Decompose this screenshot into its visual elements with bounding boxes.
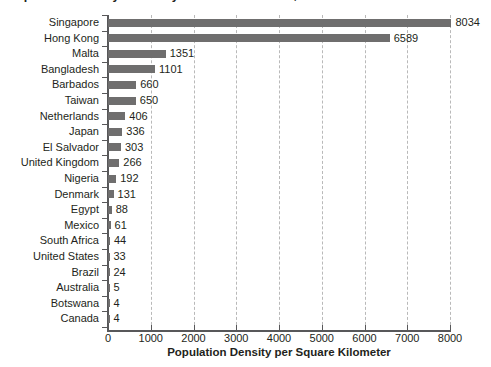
bar[interactable] [108,221,111,229]
bar[interactable] [108,50,166,58]
x-axis-tick-label: 5000 [310,332,334,344]
category-label: Nigeria [0,171,99,187]
bar[interactable] [108,299,110,307]
bar[interactable] [108,175,116,183]
category-label: Botswana [0,296,99,312]
category-label: Australia [0,280,99,296]
bar-row: Australia5 [0,280,491,296]
bar-row: Malta1351 [0,46,491,62]
x-axis-tick-label: 7000 [395,332,419,344]
bar-value-label: 8034 [455,15,479,31]
category-label: Singapore [0,15,99,31]
bar[interactable] [108,206,112,214]
x-axis-tick-label: 6000 [352,332,376,344]
bar-row: Singapore8034 [0,15,491,31]
bar-value-label: 4 [114,296,120,312]
bar-value-label: 406 [129,109,147,125]
bar-row: Denmark131 [0,187,491,203]
bar[interactable] [108,284,110,292]
category-label: Denmark [0,187,99,203]
bar[interactable] [108,112,125,120]
bar[interactable] [108,190,114,198]
bar-row: Egypt88 [0,202,491,218]
bar-value-label: 303 [125,140,143,156]
category-label: Malta [0,46,99,62]
bar-value-label: 24 [114,265,126,281]
category-label: Canada [0,311,99,327]
bar[interactable] [108,81,136,89]
bar-row: Botswana4 [0,296,491,312]
category-label: Egypt [0,202,99,218]
x-axis-tick-label: 8000 [438,332,462,344]
x-axis-tick-label: 0 [105,332,111,344]
bar[interactable] [108,65,155,73]
bar-row: Brazil24 [0,265,491,281]
category-label: Netherlands [0,109,99,125]
bar-row: United States33 [0,249,491,265]
category-label: United States [0,249,99,265]
bar-value-label: 44 [114,233,126,249]
bar-value-label: 131 [118,187,136,203]
bar-value-label: 4 [114,311,120,327]
category-label: Barbados [0,77,99,93]
category-label: Mexico [0,218,99,234]
category-label: United Kingdom [0,155,99,171]
category-label: Hong Kong [0,31,99,47]
bar-value-label: 6589 [394,31,418,47]
bar-value-label: 266 [123,155,141,171]
bar-row: Mexico61 [0,218,491,234]
bar[interactable] [108,159,119,167]
bar-value-label: 5 [114,280,120,296]
bar[interactable] [108,34,390,42]
bar-row: Barbados660 [0,77,491,93]
bar[interactable] [108,315,110,323]
bar-row: El Salvador303 [0,140,491,156]
bar-value-label: 88 [116,202,128,218]
category-label: Japan [0,124,99,140]
bar-row: United Kingdom266 [0,155,491,171]
bar-row: Netherlands406 [0,109,491,125]
category-label: Taiwan [0,93,99,109]
x-axis-tick-label: 2000 [181,332,205,344]
bar-value-label: 650 [140,93,158,109]
bar[interactable] [108,237,110,245]
bar-value-label: 1351 [170,46,194,62]
bar[interactable] [108,128,122,136]
bar-row: Canada4 [0,311,491,327]
category-label: South Africa [0,233,99,249]
bar-value-label: 660 [140,77,158,93]
bar[interactable] [108,253,110,261]
category-label: Brazil [0,265,99,281]
x-axis-tick-label: 4000 [267,332,291,344]
bar-value-label: 61 [115,218,127,234]
bar-value-label: 1101 [159,62,183,78]
bar-row: Taiwan650 [0,93,491,109]
x-axis-title: Population Density per Square Kilometer [108,346,450,358]
category-label: Bangladesh [0,62,99,78]
x-axis-tick-label: 1000 [139,332,163,344]
bar-value-label: 192 [120,171,138,187]
bar-value-label: 336 [126,124,144,140]
bar-row: Bangladesh1101 [0,62,491,78]
bar-row: Hong Kong6589 [0,31,491,47]
bar[interactable] [108,143,121,151]
category-label: El Salvador [0,140,99,156]
bar-row: South Africa44 [0,233,491,249]
bar-value-label: 33 [114,249,126,265]
bar-row: Japan336 [0,124,491,140]
x-axis-tick-label: 3000 [224,332,248,344]
chart-plot: Singapore8034Hong Kong6589Malta1351Bangl… [0,0,491,367]
bar[interactable] [108,268,110,276]
bar-row: Nigeria192 [0,171,491,187]
bar[interactable] [108,97,136,105]
bar[interactable] [108,19,451,27]
